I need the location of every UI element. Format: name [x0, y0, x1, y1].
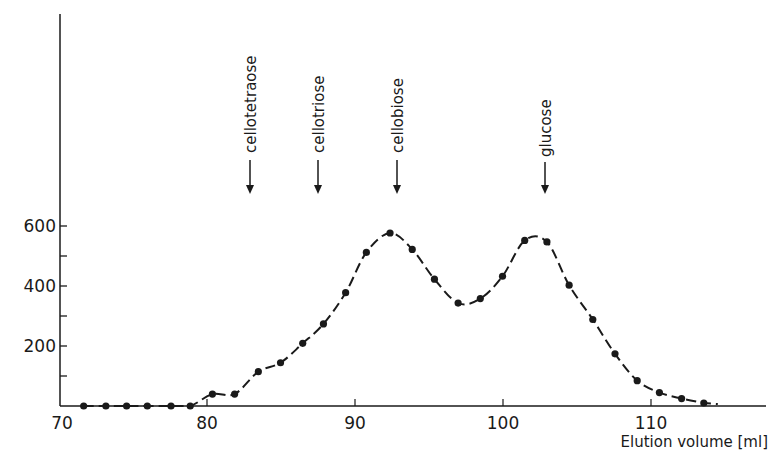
x-tick-label-80: 80	[196, 413, 218, 433]
data-point	[634, 377, 641, 384]
y-tick-label-400: 400	[24, 276, 56, 296]
x-axis-label: Elution volume [ml]	[621, 433, 768, 451]
data-point	[477, 295, 484, 302]
data-point	[102, 402, 109, 409]
x-tick-label-70: 70	[51, 413, 73, 433]
data-point	[656, 389, 663, 396]
data-point	[123, 402, 130, 409]
down-arrow-icon	[246, 185, 254, 194]
annotation-glucose: glucose	[537, 99, 555, 194]
x-tick-label-90: 90	[344, 413, 366, 433]
data-point	[80, 402, 87, 409]
data-point	[167, 402, 174, 409]
data-point	[499, 273, 506, 280]
data-point	[277, 359, 284, 366]
data-point	[231, 390, 238, 397]
data-point	[255, 368, 262, 375]
down-arrow-icon	[393, 185, 401, 194]
x-ticks	[207, 399, 651, 406]
data-point	[431, 276, 438, 283]
data-point	[363, 249, 370, 256]
down-arrow-icon	[314, 185, 322, 194]
annotation-cellotetraose: cellotetraose	[242, 55, 260, 194]
data-point	[455, 299, 462, 306]
annotation-cellotriose: cellotriose	[310, 76, 328, 194]
data-point	[521, 237, 528, 244]
data-point	[187, 402, 194, 409]
x-tick-label-100: 100	[487, 413, 519, 433]
data-point	[386, 229, 393, 236]
elution-chart: 200 400 600 70 80 90 100 110 Elution vol…	[0, 0, 778, 458]
data-point	[144, 402, 151, 409]
annotation-cellobiose: cellobiose	[389, 78, 407, 194]
data-point	[543, 238, 550, 245]
x-tick-label-110: 110	[635, 413, 667, 433]
annotation-label: cellotetraose	[242, 55, 260, 153]
series-line	[84, 233, 718, 406]
data-point	[299, 340, 306, 347]
data-point	[589, 316, 596, 323]
data-point	[320, 320, 327, 327]
data-point	[678, 395, 685, 402]
y-tick-label-200: 200	[24, 336, 56, 356]
data-point	[409, 246, 416, 253]
data-point	[611, 350, 618, 357]
annotation-label: glucose	[537, 99, 555, 157]
y-tick-label-600: 600	[24, 216, 56, 236]
series-markers	[80, 229, 707, 409]
data-point	[566, 282, 573, 289]
data-point	[342, 289, 349, 296]
annotation-label: cellotriose	[310, 76, 328, 153]
data-point	[700, 399, 707, 406]
data-point	[209, 390, 216, 397]
down-arrow-icon	[541, 185, 549, 194]
y-ticks	[60, 226, 67, 376]
annotation-label: cellobiose	[389, 78, 407, 153]
